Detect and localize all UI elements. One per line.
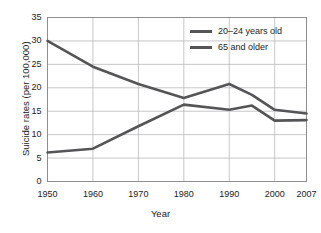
x-axis-title: Year (0, 209, 321, 219)
line-chart: 05101520253035 1950196019701980199020002… (0, 0, 321, 233)
x-tick-label: 1980 (164, 190, 204, 199)
data-series (48, 41, 307, 153)
x-tick-label: 2007 (287, 190, 321, 199)
legend-swatch-line (190, 46, 212, 49)
legend-label: 65 and older (218, 43, 268, 52)
y-tick-label: 0 (20, 177, 42, 186)
chart-legend: 20–24 years old 65 and older (190, 26, 282, 53)
legend-item-20-24: 20–24 years old (190, 26, 282, 37)
x-tick-label: 1990 (209, 190, 249, 199)
y-tick-label: 35 (20, 13, 42, 22)
legend-label: 20–24 years old (218, 27, 282, 36)
x-tick-label: 1970 (118, 190, 158, 199)
y-axis-title: Suicide rates (per 100,000) (21, 24, 31, 174)
x-tick-label: 1960 (73, 190, 113, 199)
x-tick-label: 1950 (28, 190, 68, 199)
legend-swatch-line (190, 30, 212, 33)
legend-item-65-older: 65 and older (190, 42, 282, 53)
